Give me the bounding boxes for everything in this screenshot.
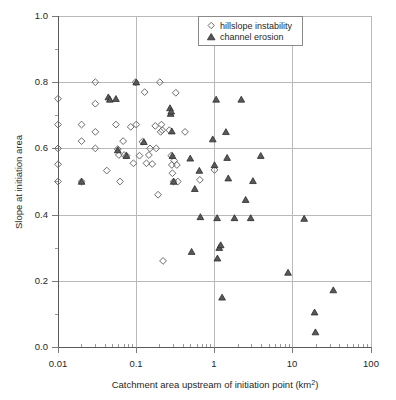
y-tick-label: 0.0	[35, 341, 48, 352]
data-point-hillslope	[152, 122, 159, 129]
data-point-channel	[301, 215, 308, 221]
legend-label-channel: channel erosion	[220, 32, 284, 42]
data-point-channel	[247, 215, 254, 221]
data-point-channel	[238, 96, 245, 102]
data-point-channel	[214, 255, 221, 261]
x-tick-label: 100	[363, 358, 379, 369]
data-point-channel	[123, 152, 130, 158]
data-point-hillslope	[169, 170, 176, 177]
y-tick-label: 0.4	[35, 209, 48, 220]
x-axis-title: Catchment area upstream of initiation po…	[112, 379, 319, 391]
legend-label-hillslope: hillslope instability	[220, 21, 293, 31]
data-point-channel	[311, 309, 318, 315]
data-point-channel	[187, 155, 194, 161]
y-tick-label: 0.6	[35, 142, 48, 153]
x-axis-title-main: Catchment area upstream of initiation po…	[112, 379, 312, 390]
data-point-hillslope	[145, 152, 152, 159]
data-point-channel	[330, 287, 337, 293]
x-axis-title-end: )	[315, 379, 318, 390]
data-point-channel	[191, 186, 198, 192]
data-point-channel	[78, 178, 85, 184]
y-axis-tick-labels: 1.0 0.8 0.6 0.4 0.2 0.0	[35, 10, 48, 352]
data-point-hillslope	[155, 191, 162, 198]
y-tick-label: 0.8	[35, 76, 48, 87]
data-point-channel	[285, 269, 292, 275]
data-point-channel	[113, 96, 120, 102]
data-point-channel	[223, 129, 230, 135]
data-point-hillslope	[113, 121, 120, 128]
data-point-channel	[312, 329, 319, 335]
data-point-hillslope	[160, 258, 167, 265]
data-point-channel	[231, 215, 238, 221]
data-point-hillslope	[136, 152, 143, 159]
x-tick-label: 0.01	[49, 358, 68, 369]
y-axis-title: Slope at initiation area	[13, 134, 24, 229]
data-point-hillslope	[141, 89, 148, 96]
data-point-channel	[257, 152, 264, 158]
data-point-channel	[170, 178, 177, 184]
series-channel-erosion	[78, 79, 336, 335]
x-axis-tick-labels: 0.01 0.1 1 10 100	[49, 358, 379, 369]
y-tick-label: 1.0	[35, 10, 48, 21]
data-point-channel	[225, 175, 232, 181]
data-point-channel	[242, 197, 249, 203]
data-point-channel	[224, 154, 231, 160]
data-point-hillslope	[173, 162, 180, 169]
x-tick-label: 1	[211, 358, 216, 369]
data-point-channel	[219, 294, 226, 300]
scatter-plot-figure: 1.0 0.8 0.6 0.4 0.2 0.0 Slope at initiat…	[0, 0, 396, 400]
legend: hillslope instability channel erosion	[198, 16, 302, 45]
data-point-hillslope	[103, 167, 110, 174]
data-point-channel	[209, 136, 216, 142]
data-point-hillslope	[78, 121, 85, 128]
data-point-channel	[211, 162, 218, 168]
data-point-hillslope	[92, 128, 99, 135]
data-point-hillslope	[168, 162, 175, 169]
data-point-hillslope	[172, 89, 179, 96]
data-point-channel	[250, 178, 257, 184]
x-tick-label: 0.1	[129, 358, 142, 369]
data-point-channel	[196, 167, 203, 173]
chart-canvas: 1.0 0.8 0.6 0.4 0.2 0.0 Slope at initiat…	[0, 0, 396, 400]
data-point-channel	[214, 215, 221, 221]
data-point-hillslope	[92, 100, 99, 107]
data-point-channel	[217, 242, 224, 248]
data-point-hillslope	[78, 138, 85, 145]
data-point-hillslope	[120, 138, 127, 145]
data-point-channel	[188, 248, 195, 254]
data-point-channel	[168, 128, 175, 134]
y-tick-label: 0.2	[35, 275, 48, 286]
data-point-hillslope	[196, 176, 203, 183]
x-tick-label: 10	[287, 358, 298, 369]
data-point-hillslope	[117, 178, 124, 185]
data-point-hillslope	[182, 128, 189, 135]
